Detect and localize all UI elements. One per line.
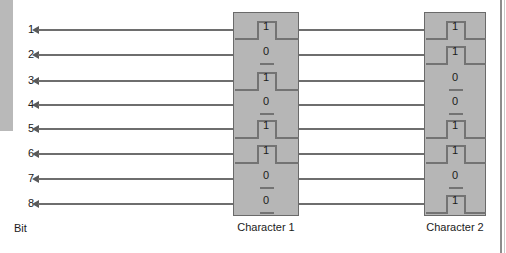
waveform-segment xyxy=(426,63,446,65)
bit-waveform-cell: 0 xyxy=(425,167,485,193)
signal-line-to-character-1 xyxy=(38,153,233,155)
signal-line-between-characters xyxy=(299,54,424,56)
waveform-segment xyxy=(235,137,257,139)
waveform-segment xyxy=(260,113,274,115)
bit-waveform-cell: 0 xyxy=(234,192,298,218)
waveform-segment xyxy=(449,89,463,91)
bit-waveform-cell: 1 xyxy=(425,43,485,69)
waveform-segment xyxy=(426,38,446,40)
waveform-segment xyxy=(426,137,446,139)
bit-waveform-cell: 0 xyxy=(425,93,485,119)
character-1-caption: Character 1 xyxy=(213,221,319,233)
signal-line-to-character-1 xyxy=(38,203,233,205)
signal-line-between-characters xyxy=(299,29,424,31)
waveform-segment xyxy=(449,187,463,189)
signal-line-between-characters xyxy=(299,128,424,130)
page-edge-shadow-left xyxy=(0,0,13,131)
bit-value-digit: 1 xyxy=(234,144,298,156)
waveform-segment xyxy=(275,38,299,40)
bit-waveform-cell: 1 xyxy=(425,142,485,168)
bit-value-digit: 0 xyxy=(425,169,485,181)
waveform-segment xyxy=(275,137,299,139)
bit-value-digit: 1 xyxy=(234,20,298,32)
waveform-segment xyxy=(235,162,257,164)
bit-value-digit: 1 xyxy=(425,194,485,206)
waveform-segment xyxy=(426,212,446,214)
waveform-segment xyxy=(260,212,274,214)
bit-waveform-cell: 1 xyxy=(425,192,485,218)
waveform-segment xyxy=(275,162,299,164)
bit-value-digit: 1 xyxy=(425,119,485,131)
waveform-segment xyxy=(449,113,463,115)
bit-waveform-cell: 1 xyxy=(425,117,485,143)
waveform-segment xyxy=(464,137,486,139)
character-2-box: 11001101 xyxy=(424,12,486,216)
waveform-segment xyxy=(235,89,257,91)
signal-line-to-character-1 xyxy=(38,104,233,106)
bit-waveform-cell: 1 xyxy=(425,18,485,44)
bit-value-digit: 0 xyxy=(425,71,485,83)
page-edge-rule-right-secondary xyxy=(504,0,505,253)
signal-line-to-character-1 xyxy=(38,178,233,180)
bit-waveform-cell: 1 xyxy=(234,117,298,143)
bit-value-digit: 1 xyxy=(425,45,485,57)
bit-value-digit: 1 xyxy=(425,144,485,156)
bit-waveform-cell: 1 xyxy=(234,69,298,95)
signal-line-to-character-1 xyxy=(38,128,233,130)
waveform-segment xyxy=(426,162,446,164)
waveform-segment xyxy=(275,89,299,91)
page-edge-rule-right xyxy=(500,0,502,253)
signal-line-between-characters xyxy=(299,203,424,205)
bit-value-digit: 1 xyxy=(234,71,298,83)
bit-value-digit: 1 xyxy=(234,119,298,131)
waveform-segment xyxy=(464,212,486,214)
character-1-box: 10101100 xyxy=(233,12,299,216)
waveform-segment xyxy=(260,63,274,65)
bit-axis-label: Bit xyxy=(14,222,27,234)
bit-value-digit: 0 xyxy=(234,95,298,107)
waveform-segment xyxy=(464,63,486,65)
signal-line-between-characters xyxy=(299,153,424,155)
waveform-segment xyxy=(464,162,486,164)
signal-line-between-characters xyxy=(299,80,424,82)
bit-value-digit: 0 xyxy=(425,95,485,107)
signal-line-to-character-1 xyxy=(38,29,233,31)
signal-line-to-character-1 xyxy=(38,54,233,56)
bit-waveform-cell: 1 xyxy=(234,18,298,44)
bit-transmission-diagram: 12345678 10101100 11001101 Character 1 C… xyxy=(0,0,506,253)
bit-waveform-cell: 1 xyxy=(234,142,298,168)
signal-line-to-character-1 xyxy=(38,80,233,82)
bit-waveform-cell: 0 xyxy=(234,93,298,119)
bit-value-digit: 0 xyxy=(234,45,298,57)
bit-waveform-cell: 0 xyxy=(425,69,485,95)
bit-waveform-cell: 0 xyxy=(234,43,298,69)
bit-value-digit: 0 xyxy=(234,169,298,181)
bit-value-digit: 1 xyxy=(425,20,485,32)
signal-line-between-characters xyxy=(299,178,424,180)
waveform-segment xyxy=(464,38,486,40)
character-2-caption: Character 2 xyxy=(404,221,506,233)
bit-waveform-cell: 0 xyxy=(234,167,298,193)
waveform-segment xyxy=(260,187,274,189)
bit-value-digit: 0 xyxy=(234,194,298,206)
signal-line-between-characters xyxy=(299,104,424,106)
waveform-segment xyxy=(235,38,257,40)
